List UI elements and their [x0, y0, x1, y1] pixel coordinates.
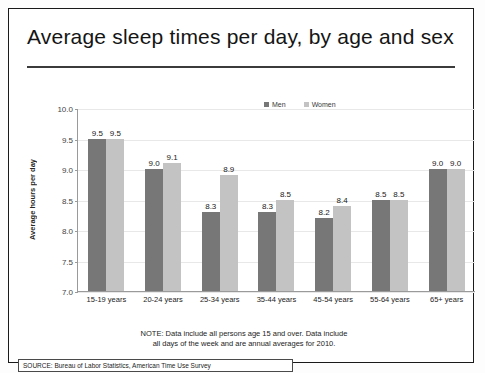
legend-swatch-women: [304, 102, 309, 107]
chart-note: NOTE: Data include all persons age 15 an…: [49, 329, 439, 349]
bar-men: 9.5: [88, 139, 106, 292]
bar-value-label: 8.2: [319, 208, 330, 217]
bar-value-label: 8.9: [223, 165, 234, 174]
bar-men: 8.2: [315, 218, 333, 291]
y-tick-label: 10.0: [57, 105, 73, 114]
bar-value-label: 9.1: [166, 153, 177, 162]
x-axis-label: 15-19 years: [87, 295, 127, 304]
legend-label-men: Men: [272, 101, 286, 108]
bar-women: 8.5: [276, 200, 294, 292]
bar-value-label: 9.5: [110, 129, 121, 138]
bar-women: 8.4: [333, 206, 351, 291]
bar-men: 8.5: [372, 200, 390, 292]
y-tick-label: 9.5: [62, 135, 73, 144]
bar-group: 9.09.120-24 years: [145, 109, 181, 291]
legend-item-women: Women: [304, 101, 336, 108]
x-axis-label: 45-54 years: [313, 295, 353, 304]
bar-group: 8.38.925-34 years: [202, 109, 238, 291]
bar-groups: 9.59.515-19 years9.09.120-24 years8.38.9…: [78, 109, 475, 291]
y-axis-title: Average hours per day: [29, 159, 43, 240]
bar-women: 8.5: [390, 200, 408, 292]
y-tick-label: 7.0: [62, 288, 73, 297]
bar-group: 8.38.535-44 years: [258, 109, 294, 291]
y-tick-label: 8.0: [62, 227, 73, 236]
title-divider: [27, 66, 455, 68]
bar-men: 8.3: [202, 212, 220, 291]
x-axis-label: 20-24 years: [143, 295, 183, 304]
bar-women: 9.5: [106, 139, 124, 292]
legend-label-women: Women: [312, 101, 336, 108]
bar-group: 8.58.555-64 years: [372, 109, 408, 291]
note-line-2: all days of the week and are annual aver…: [49, 339, 439, 349]
bar-value-label: 8.3: [262, 202, 273, 211]
chart-legend: Men Women: [264, 101, 336, 108]
x-axis-label: 65+ years: [430, 295, 463, 304]
x-axis-label: 25-34 years: [200, 295, 240, 304]
bar-group: 9.09.065+ years: [429, 109, 465, 291]
bar-value-label: 8.3: [205, 202, 216, 211]
y-tick-label: 7.5: [62, 257, 73, 266]
bar-men: 9.0: [145, 169, 163, 291]
bar-value-label: 9.0: [432, 159, 443, 168]
chart-source: SOURCE: Bureau of Labor Statistics, Amer…: [18, 359, 293, 372]
bar-men: 8.3: [258, 212, 276, 291]
bar-value-label: 9.5: [92, 129, 103, 138]
legend-item-men: Men: [264, 101, 286, 108]
note-line-1: NOTE: Data include all persons age 15 an…: [49, 329, 439, 339]
bar-group: 8.28.445-54 years: [315, 109, 351, 291]
gridline: [78, 292, 475, 293]
bar-group: 9.59.515-19 years: [88, 109, 124, 291]
chart-plot-area: 10.09.59.08.58.07.57.0 9.59.515-19 years…: [77, 109, 475, 292]
bar-women: 8.9: [220, 175, 238, 291]
bar-value-label: 8.5: [375, 190, 386, 199]
bar-men: 9.0: [429, 169, 447, 291]
slide-frame: Average sleep times per day, by age and …: [8, 8, 474, 363]
bar-women: 9.1: [163, 163, 181, 291]
bar-value-label: 8.5: [393, 190, 404, 199]
page-title: Average sleep times per day, by age and …: [27, 25, 457, 49]
bar-value-label: 8.4: [337, 196, 348, 205]
y-tick-label: 8.5: [62, 196, 73, 205]
y-tick-mark: [75, 292, 78, 293]
bar-value-label: 8.5: [280, 190, 291, 199]
bar-value-label: 9.0: [450, 159, 461, 168]
x-axis-label: 35-44 years: [257, 295, 297, 304]
bar-women: 9.0: [447, 169, 465, 291]
bar-value-label: 9.0: [148, 159, 159, 168]
y-tick-label: 9.0: [62, 166, 73, 175]
x-axis-label: 55-64 years: [370, 295, 410, 304]
legend-swatch-men: [264, 102, 269, 107]
